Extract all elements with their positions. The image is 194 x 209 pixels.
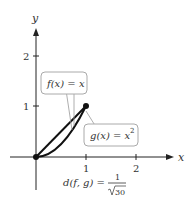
tick-label-y1: 1 xyxy=(23,101,29,112)
chart: x y 1 2 1 2 f(x) = x g(x) = x 2 d(f, g) … xyxy=(0,0,194,209)
distance-lhs: d(f, g) = xyxy=(63,177,105,188)
point-origin xyxy=(33,154,39,160)
series-f-line xyxy=(36,106,86,157)
g-label: g(x) = x xyxy=(90,130,131,141)
x-axis-arrow-icon xyxy=(166,154,174,160)
point-one-one xyxy=(83,103,89,109)
distance-annotation: d(f, g) = 1 30 xyxy=(63,173,126,197)
callout-f: f(x) = x xyxy=(41,72,87,130)
y-axis-label: y xyxy=(31,12,39,25)
tick-label-x2: 2 xyxy=(133,163,139,174)
distance-denominator: 30 xyxy=(115,188,125,197)
y-axis-arrow-icon xyxy=(33,28,39,36)
x-axis-label: x xyxy=(178,151,185,164)
tick-label-y2: 2 xyxy=(23,51,29,62)
distance-numerator: 1 xyxy=(115,173,120,182)
callout-g: g(x) = x 2 xyxy=(84,111,138,146)
f-label: f(x) = x xyxy=(46,78,85,89)
tick-label-x1: 1 xyxy=(83,163,89,174)
g-exponent: 2 xyxy=(130,127,134,135)
